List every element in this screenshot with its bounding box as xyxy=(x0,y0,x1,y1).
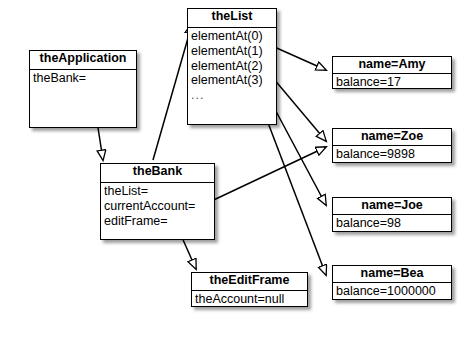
object-attribute-row: theBank= xyxy=(33,71,136,86)
object-box-title: name=Amy xyxy=(333,57,451,74)
object-attribute-row: balance=9898 xyxy=(336,147,451,162)
object-box-attributes: balance=1000000 xyxy=(333,283,451,299)
object-attribute-row: elementAt(2) xyxy=(191,59,276,74)
object-box-title: theApplication xyxy=(30,51,136,70)
object-box-accountJoe[interactable]: name=Joebalance=98 xyxy=(332,197,452,232)
object-box-title: theEditFrame xyxy=(192,273,307,291)
object-box-attributes: balance=98 xyxy=(333,215,451,231)
object-attribute-row: theAccount=null xyxy=(195,292,307,307)
object-box-accountAmy[interactable]: name=Amybalance=17 xyxy=(332,56,452,89)
object-attribute-row: elementAt(1) xyxy=(191,44,276,59)
object-attribute-row: balance=1000000 xyxy=(336,284,451,299)
object-attribute-row: currentAccount= xyxy=(104,199,214,214)
object-box-accountBea[interactable]: name=Beabalance=1000000 xyxy=(332,265,452,300)
object-box-theEditFrame[interactable]: theEditFrametheAccount=null xyxy=(191,272,308,307)
object-attribute-row: elementAt(0) xyxy=(191,29,276,44)
object-box-attributes: balance=17 xyxy=(333,74,451,90)
object-attribute-row: balance=98 xyxy=(336,216,451,231)
diagram-arrow-bank-curr-to-zoe xyxy=(203,147,326,205)
object-box-title: name=Zoe xyxy=(333,129,451,146)
object-attribute-row: ... xyxy=(191,88,276,103)
object-box-title: theList xyxy=(188,9,276,28)
object-box-attributes: elementAt(0)elementAt(1)elementAt(2)elem… xyxy=(188,28,276,103)
object-box-attributes: theBank= xyxy=(30,70,136,86)
object-box-attributes: theList=currentAccount=editFrame= xyxy=(101,183,214,228)
object-box-theApplication[interactable]: theApplicationtheBank= xyxy=(29,50,137,128)
object-box-theList[interactable]: theListelementAt(0)elementAt(1)elementAt… xyxy=(187,8,277,125)
object-box-accountZoe[interactable]: name=Zoebalance=9898 xyxy=(332,128,452,163)
object-box-attributes: balance=9898 xyxy=(333,146,451,162)
object-box-attributes: theAccount=null xyxy=(192,291,307,307)
object-attribute-row: elementAt(3) xyxy=(191,73,276,88)
object-attribute-row: balance=17 xyxy=(336,75,451,90)
object-diagram-canvas: theApplicationtheBank=theListelementAt(0… xyxy=(0,0,472,341)
object-attribute-row: editFrame= xyxy=(104,214,214,229)
object-attribute-row: theList= xyxy=(104,184,214,199)
object-box-title: theBank xyxy=(101,164,214,183)
object-box-title: name=Joe xyxy=(333,198,451,215)
object-box-theBank[interactable]: theBanktheList=currentAccount=editFrame= xyxy=(100,163,215,240)
object-box-title: name=Bea xyxy=(333,266,451,283)
